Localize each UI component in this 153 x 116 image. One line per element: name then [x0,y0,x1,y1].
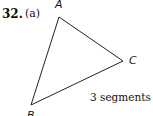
vertex-label-c: C [129,54,137,67]
vertex-label-b: B [27,109,35,116]
segment-count-caption: 3 segments [90,91,151,103]
vertex-label-a: A [55,0,63,11]
